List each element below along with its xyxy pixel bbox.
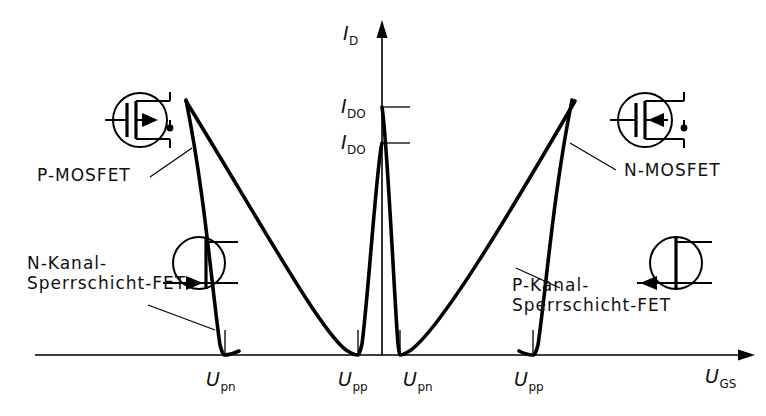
x-tick-label-upn-left: Upn: [206, 368, 236, 394]
x-tick-label-upp-centre-left: Upp: [338, 368, 368, 394]
diagram-canvas: [0, 0, 766, 416]
curve-label-n-kanal-jfet: N-Kanal- Sperrschicht-FET: [27, 253, 186, 293]
leader-p-mosfet: [150, 148, 192, 177]
leader-n-mosfet: [570, 143, 616, 170]
y-tick-label-ido-lower: IDO: [341, 131, 366, 157]
p-mosfet-substrate-arrow-icon: [142, 113, 158, 127]
curve-p-kanal-jfet: [382, 101, 575, 355]
x-axis-ticks: [225, 330, 533, 355]
x-axis-arrowhead: [738, 350, 755, 361]
x-tick-label-upn-centre-right: Upn: [403, 368, 433, 394]
curve-label-n-mosfet: N-MOSFET: [624, 160, 721, 180]
y-tick-label-ido-upper: IDO: [341, 95, 366, 121]
curve-label-p-mosfet: P-MOSFET: [37, 165, 131, 185]
leader-n-kanal-jfet: [148, 305, 215, 330]
fet-transfer-characteristic-diagram: ID UGS IDO IDO Upn Upp Upn Upp P-MOSFET …: [0, 0, 766, 416]
curve-p-mosfet: [186, 100, 239, 355]
y-axis-label: ID: [343, 22, 358, 48]
n-mosfet-substrate-arrow-icon: [648, 113, 664, 127]
curve-label-p-kanal-jfet: P-Kanal- Sperrschicht-FET: [512, 275, 671, 315]
x-tick-label-upp-right: Upp: [514, 368, 544, 394]
y-axis-arrowhead: [377, 20, 388, 38]
curve-n-mosfet: [519, 100, 572, 355]
p-mosfet-symbol: [105, 92, 173, 148]
x-axis-label: UGS: [705, 365, 736, 391]
n-mosfet-symbol: [610, 92, 687, 148]
curves-group: [186, 100, 575, 355]
